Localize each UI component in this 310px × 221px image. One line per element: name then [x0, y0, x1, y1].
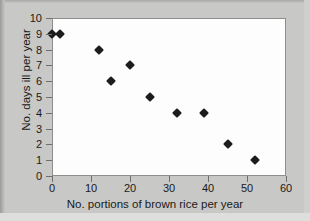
y-tick-mark — [46, 34, 52, 35]
x-tick-label: 20 — [117, 183, 143, 194]
scan-edge-top — [0, 0, 310, 3]
y-axis-title: No. days ill per year — [20, 10, 32, 150]
y-tick-mark — [46, 144, 52, 145]
y-tick-mark — [46, 113, 52, 114]
x-tick-label: 30 — [156, 183, 182, 194]
data-point — [223, 139, 233, 149]
scan-edge-right — [304, 0, 310, 221]
y-tick-mark — [46, 65, 52, 66]
data-point — [106, 76, 116, 86]
y-tick-mark — [46, 97, 52, 98]
x-tick-label: 10 — [78, 183, 104, 194]
y-tick-mark — [46, 81, 52, 82]
x-tick-label: 50 — [234, 183, 260, 194]
y-tick-label: 1 — [22, 155, 42, 166]
data-point — [172, 108, 182, 118]
x-axis-title: No. portions of brown rice per year — [0, 198, 310, 210]
data-point — [145, 92, 155, 102]
y-tick-mark — [46, 129, 52, 130]
data-point — [125, 60, 135, 70]
x-tick-label: 60 — [273, 183, 299, 194]
scatter-plot-figure: 012345678910 0102030405060 No. days ill … — [0, 0, 310, 221]
plot-area — [52, 18, 286, 176]
x-tick-label: 40 — [195, 183, 221, 194]
y-tick-mark — [46, 50, 52, 51]
data-point — [55, 29, 65, 39]
scan-edge-bottom — [0, 213, 310, 221]
data-point — [94, 45, 104, 55]
y-tick-label: 0 — [22, 171, 42, 182]
data-point — [250, 155, 260, 165]
y-tick-mark — [46, 18, 52, 19]
x-tick-label: 0 — [39, 183, 65, 194]
y-tick-mark — [46, 160, 52, 161]
scan-edge-left — [0, 0, 5, 221]
data-point — [199, 108, 209, 118]
